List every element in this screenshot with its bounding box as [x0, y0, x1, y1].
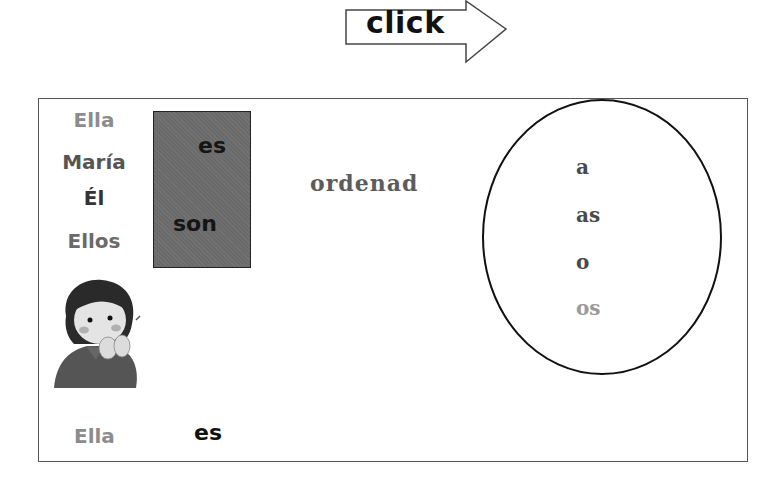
ending-os[interactable]: os [576, 296, 601, 320]
ending-as[interactable]: as [576, 203, 600, 227]
verb-es[interactable]: es [198, 133, 226, 158]
click-label: click [366, 5, 445, 40]
subject-el[interactable]: Él [54, 186, 134, 210]
endings-oval [481, 99, 723, 379]
subject-maria[interactable]: María [54, 150, 134, 174]
subject-ella[interactable]: Ella [54, 108, 134, 132]
answer-verb: es [194, 420, 222, 445]
answer-subject: Ella [74, 424, 115, 448]
verb-son[interactable]: son [173, 211, 217, 236]
girl-whispering-illustration [50, 276, 150, 392]
ordenad-instruction[interactable]: ordenad [310, 170, 418, 196]
ending-o[interactable]: o [576, 250, 589, 274]
subject-ellos[interactable]: Ellos [54, 229, 134, 253]
ending-a[interactable]: a [576, 155, 589, 179]
click-next-button[interactable]: click [344, 0, 510, 66]
